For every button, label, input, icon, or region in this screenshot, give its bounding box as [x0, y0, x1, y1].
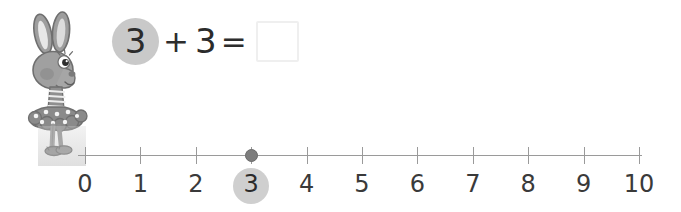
number-line-label-3[interactable]: 3: [229, 171, 273, 197]
number-line-tick-4: [307, 147, 308, 164]
equation-plus-operator: +: [159, 26, 193, 57]
number-line-tick-7: [473, 147, 474, 164]
number-line[interactable]: 012345678910: [0, 130, 681, 208]
number-line-label-9[interactable]: 9: [562, 171, 606, 197]
number-line-tick-2: [196, 147, 197, 164]
number-line-tick-1: [140, 147, 141, 164]
answer-input-box[interactable]: [256, 21, 299, 62]
number-line-label-8[interactable]: 8: [506, 171, 550, 197]
number-line-label-0[interactable]: 0: [63, 171, 107, 197]
equation-addend2: 3: [193, 24, 219, 58]
number-line-label-2[interactable]: 2: [174, 171, 218, 197]
equation-addend1-highlighted: 3: [112, 18, 159, 65]
number-line-label-1[interactable]: 1: [118, 171, 162, 197]
number-line-tick-5: [362, 147, 363, 164]
number-line-label-10[interactable]: 10: [617, 171, 661, 197]
equation-row: 3 + 3 =: [112, 10, 299, 72]
number-line-tick-6: [417, 147, 418, 164]
number-line-label-7[interactable]: 7: [451, 171, 495, 197]
number-line-tick-9: [584, 147, 585, 164]
number-line-tick-10: [639, 147, 640, 164]
number-line-label-5[interactable]: 5: [340, 171, 384, 197]
number-line-label-4[interactable]: 4: [285, 171, 329, 197]
number-line-tick-8: [528, 147, 529, 164]
number-line-axis: [78, 155, 642, 156]
equation-equals-sign: =: [219, 26, 250, 57]
number-line-label-6[interactable]: 6: [395, 171, 439, 197]
number-line-tick-0: [85, 147, 86, 164]
number-line-worksheet: 3 + 3 = 012345678910: [0, 0, 681, 212]
number-line-marker-dot[interactable]: [245, 149, 258, 162]
